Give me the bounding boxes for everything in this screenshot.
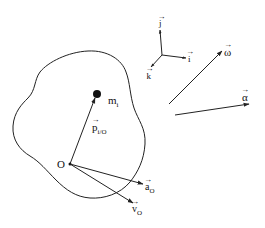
mass-label: mi xyxy=(108,94,119,109)
omega-vector xyxy=(169,51,222,104)
mass-particle xyxy=(93,90,101,98)
alpha-vector xyxy=(175,104,249,115)
alpha-label: α xyxy=(242,91,248,103)
i-axis xyxy=(162,55,186,58)
origin-label: O xyxy=(57,158,65,170)
k-label: k xyxy=(147,71,152,81)
j-label: j xyxy=(158,18,162,28)
reference-frame: → j → i → k xyxy=(146,12,195,81)
accel-origin-vector xyxy=(70,164,143,184)
rigid-body-diagram: → j → i → k → ω → α mi → pi/O O → aO → v… xyxy=(0,0,265,228)
j-axis xyxy=(160,30,162,55)
rigid-body-outline xyxy=(13,51,145,198)
omega-label: ω xyxy=(224,46,231,58)
